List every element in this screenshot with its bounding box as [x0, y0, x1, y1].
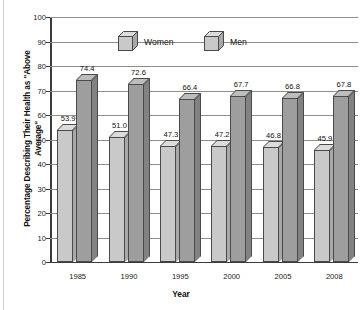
bar-men-1985: [76, 80, 92, 262]
bar-side-face: [195, 93, 201, 262]
bar-men-2008: [333, 96, 349, 262]
y-tick-label-0: 0: [6, 258, 46, 267]
bar-front: [263, 147, 279, 262]
bar-front: [57, 130, 73, 262]
bar-front: [128, 84, 144, 262]
bar-front: [76, 80, 92, 262]
bar-side-face: [92, 74, 98, 262]
bar-men-1995: [179, 99, 195, 262]
bar-front: [211, 146, 227, 262]
y-tick-mark-80: [46, 66, 50, 67]
y-tick-label-60: 60: [6, 111, 46, 120]
bar-front: [179, 99, 195, 262]
y-tick-mark-40: [46, 164, 50, 165]
x-tick-label-2005: 2005: [261, 272, 305, 281]
y-tick-mark-20: [46, 213, 50, 214]
bar-women-2005: [263, 147, 279, 262]
y-tick-label-100: 100: [6, 13, 46, 22]
y-tick-mark-90: [46, 42, 50, 43]
plot-area: 53.974.451.072.647.366.447.267.746.866.8…: [50, 17, 358, 262]
y-tick-label-30: 30: [6, 185, 46, 194]
y-tick-label-80: 80: [6, 62, 46, 71]
bar-side-face: [246, 90, 252, 262]
y-tick-label-90: 90: [6, 38, 46, 47]
x-tick-label-2000: 2000: [210, 272, 254, 281]
legend-label-men: Men: [230, 37, 247, 47]
bar-side-face: [349, 90, 355, 262]
y-tick-mark-70: [46, 91, 50, 92]
bar-men-1990: [128, 84, 144, 262]
value-label-men-2005: 66.8: [276, 82, 310, 91]
legend-swatch-women: [118, 31, 138, 51]
bar-women-1985: [57, 130, 73, 262]
y-tick-mark-30: [46, 189, 50, 190]
value-label-men-1995: 66.4: [173, 83, 207, 92]
bar-men-2000: [230, 96, 246, 262]
value-label-men-1990: 72.6: [122, 68, 156, 77]
bar-side-face: [144, 78, 150, 262]
bar-women-1990: [109, 137, 125, 262]
legend-label-women: Women: [144, 37, 173, 47]
bar-men-2005: [282, 98, 298, 262]
y-tick-mark-100: [46, 17, 50, 18]
value-label-men-2000: 67.7: [224, 80, 258, 89]
x-tick-label-1985: 1985: [56, 272, 100, 281]
x-axis-title: Year: [0, 289, 362, 299]
bar-front: [333, 96, 349, 262]
value-label-men-1985: 74.4: [70, 64, 104, 73]
value-label-men-2008: 67.8: [327, 80, 361, 89]
bar-women-2008: [314, 150, 330, 262]
y-tick-label-70: 70: [6, 87, 46, 96]
x-tick-label-1990: 1990: [107, 272, 151, 281]
y-tick-label-50: 50: [6, 136, 46, 145]
bar-front: [230, 96, 246, 262]
y-tick-label-40: 40: [6, 160, 46, 169]
bar-front: [314, 150, 330, 262]
gridline-0: [50, 262, 358, 263]
y-tick-mark-50: [46, 140, 50, 141]
y-tick-mark-10: [46, 238, 50, 239]
y-tick-mark-0: [46, 262, 50, 263]
legend-swatch-men: [204, 31, 224, 51]
y-tick-label-10: 10: [6, 234, 46, 243]
bar-front: [109, 137, 125, 262]
y-tick-label-20: 20: [6, 209, 46, 218]
x-tick-label-1995: 1995: [158, 272, 202, 281]
gridline-100: [50, 17, 358, 18]
bar-side-face: [298, 92, 304, 262]
x-tick-label-2008: 2008: [312, 272, 356, 281]
bar-front: [160, 146, 176, 262]
bar-chart: Percentage Describing Their Health as "A…: [0, 0, 362, 310]
bar-women-1995: [160, 146, 176, 262]
y-tick-mark-60: [46, 115, 50, 116]
bar-women-2000: [211, 146, 227, 262]
bar-front: [282, 98, 298, 262]
